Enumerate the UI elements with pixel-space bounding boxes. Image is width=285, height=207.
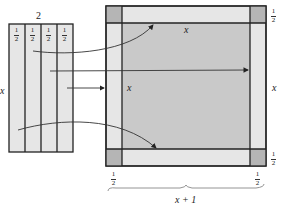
width-label-2: 2 bbox=[36, 11, 41, 21]
strip-label-2: 12 bbox=[30, 27, 35, 43]
corner-top-right bbox=[250, 6, 266, 23]
corner-bottom-left bbox=[106, 149, 122, 166]
left-strip-label-x: x bbox=[127, 83, 131, 93]
corner-label-top-right: 12 bbox=[271, 8, 276, 24]
height-label-x: x bbox=[0, 86, 4, 96]
strip-label-1: 12 bbox=[14, 27, 19, 43]
right-side-label-x: x bbox=[272, 83, 276, 93]
brace bbox=[108, 184, 264, 191]
corner-label-bottom-right: 12 bbox=[271, 151, 276, 167]
center-square bbox=[122, 23, 250, 149]
brace-label-x-plus-1: x + 1 bbox=[175, 195, 196, 205]
completing-the-square-diagram bbox=[0, 0, 285, 207]
top-strip-label-x: x bbox=[184, 25, 188, 35]
bottom-left-label-half: 12 bbox=[111, 171, 116, 187]
corner-top-left bbox=[106, 6, 122, 23]
strip-label-3: 12 bbox=[46, 27, 51, 43]
corner-bottom-right bbox=[250, 149, 266, 166]
strip-label-4: 12 bbox=[62, 27, 67, 43]
left-rectangle bbox=[9, 24, 73, 152]
bottom-right-label-half: 12 bbox=[255, 171, 260, 187]
